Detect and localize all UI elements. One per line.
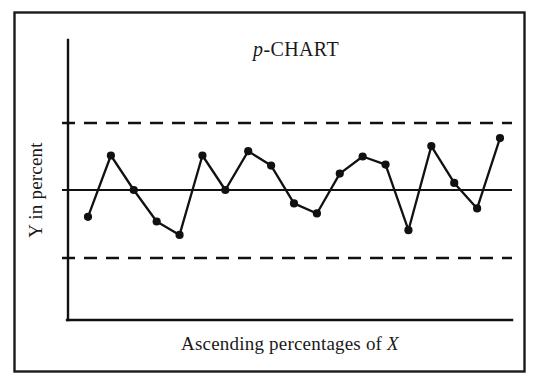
data-point — [84, 213, 92, 221]
data-point — [244, 147, 252, 155]
data-point — [473, 204, 481, 212]
data-point-markers — [84, 134, 504, 239]
x-axis-label-italic: X — [386, 333, 400, 354]
chart-canvas: p-CHART Y in percent Ascending percentag… — [0, 0, 540, 382]
data-point — [221, 186, 229, 194]
x-axis-label-prefix: Ascending percentages of — [181, 333, 387, 354]
data-point — [153, 217, 161, 225]
chart-title: p-CHART — [251, 38, 339, 61]
p-chart-figure: p-CHART Y in percent Ascending percentag… — [0, 0, 540, 382]
data-point — [336, 169, 344, 177]
data-point — [381, 160, 389, 168]
x-axis-label: Ascending percentages of X — [181, 333, 400, 354]
chart-title-rest: -CHART — [263, 38, 339, 60]
data-point — [290, 199, 298, 207]
outer-frame — [15, 13, 525, 372]
data-point — [198, 151, 206, 159]
data-point — [175, 231, 183, 239]
data-point — [404, 226, 412, 234]
data-point — [130, 186, 138, 194]
chart-title-italic: p — [251, 38, 263, 61]
data-point — [267, 161, 275, 169]
data-point — [313, 209, 321, 217]
data-point — [450, 179, 458, 187]
data-point — [107, 151, 115, 159]
data-point — [359, 152, 367, 160]
data-series-line — [88, 138, 500, 235]
data-point — [496, 134, 504, 142]
data-point — [427, 142, 435, 150]
y-axis-label: Y in percent — [25, 142, 46, 238]
